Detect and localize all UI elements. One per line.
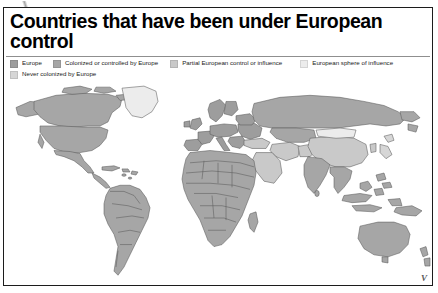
legend-item-partial: Partial European control or influence [170, 60, 282, 68]
region-korea [370, 143, 376, 152]
region-north-america [16, 86, 130, 188]
legend-label-sphere: European sphere of influence [312, 60, 393, 66]
region-caribbean [102, 165, 138, 178]
map-figure-frame: Countries that have been under European … [3, 7, 433, 286]
legend-row-secondary: Never colonized by Europe [10, 71, 427, 79]
legend-swatch-europe [10, 60, 18, 68]
legend-swatch-never [10, 71, 18, 79]
region-japan [380, 134, 394, 159]
region-maritime-southeast-asia [342, 173, 402, 212]
region-mongolia [316, 128, 356, 138]
legend-swatch-colonized [53, 60, 61, 68]
region-new-zealand [420, 246, 430, 265]
legend-label-never: Never colonized by Europe [22, 71, 96, 77]
legend-item-europe: Europe [10, 60, 42, 68]
title-block: Countries that have been under European … [4, 8, 432, 54]
page-title: Countries that have been under European … [10, 11, 426, 52]
legend-row-primary: Europe Colonized or controlled by Europe… [10, 60, 427, 68]
legend-swatch-partial [170, 60, 178, 68]
region-greenland [122, 86, 158, 118]
world-map: V [4, 81, 432, 285]
legend-item-colonized: Colonized or controlled by Europe [53, 60, 158, 68]
region-africa [182, 150, 258, 246]
legend-swatch-sphere [300, 60, 308, 68]
legend-label-colonized: Colonized or controlled by Europe [65, 60, 158, 66]
region-new-guinea [394, 205, 422, 215]
legend-item-sphere: European sphere of influence [300, 60, 393, 68]
region-australia [358, 222, 410, 263]
legend-item-never: Never colonized by Europe [10, 71, 96, 79]
legend-label-partial: Partial European control or influence [182, 60, 282, 66]
map-legend: Europe Colonized or controlled by Europe… [4, 57, 432, 81]
region-south-america [104, 185, 150, 275]
legend-label-europe: Europe [22, 60, 42, 66]
world-map-svg [4, 81, 432, 285]
watermark: V [421, 273, 427, 283]
